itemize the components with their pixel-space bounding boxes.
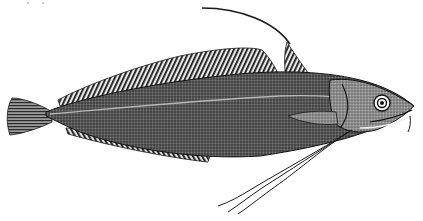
eye xyxy=(374,95,390,111)
fish-illustration xyxy=(0,0,423,221)
specks xyxy=(27,2,44,4)
first-dorsal-filament xyxy=(202,8,290,44)
barbel xyxy=(408,116,410,132)
caudal-fin xyxy=(7,98,52,135)
head xyxy=(329,79,414,132)
illustration-canvas: Engraved illustration of a fish (hake-li… xyxy=(0,0,423,221)
